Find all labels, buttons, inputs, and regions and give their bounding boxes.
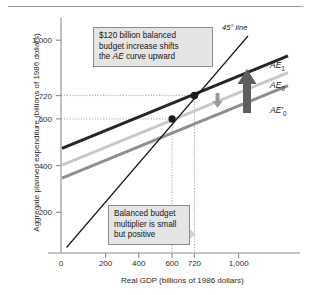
ae0-prime-curve	[62, 86, 288, 179]
annotation-top-line3-pre: the	[99, 52, 113, 61]
ae1-label-base: AE	[270, 60, 281, 70]
x-tick-0: 0	[46, 259, 76, 268]
x-tick-400: 400	[124, 259, 154, 268]
annotation-top-line3-post: curve upward	[124, 52, 175, 61]
ae0-prime-curve-label: AE'0	[270, 105, 287, 117]
y-axis-title: Aggregate planned expenditure (billions …	[32, 33, 41, 233]
annotation-budget-increase: $120 billion balanced budget increase sh…	[93, 27, 213, 67]
annotation-top-line2: budget increase shifts	[99, 42, 207, 53]
x-tick-720: 720	[179, 259, 209, 268]
annotation-bottom-line3: but positive	[114, 230, 184, 241]
ae1-label-sub: 1	[281, 65, 285, 72]
ae0-curve-label: AE0	[270, 80, 285, 92]
x-axis-title: Real GDP (billions of 1986 dollars)	[121, 276, 244, 285]
ae1-curve	[62, 56, 288, 149]
annotation-top-line3-em: AE	[113, 52, 124, 61]
x-axis-ticks	[106, 253, 239, 258]
x-tick-1000: 1,000	[224, 259, 254, 268]
ae0-prime-label-sub: 0	[283, 110, 287, 117]
ae0-label-base: AE	[270, 80, 281, 90]
annotation-balanced-budget-multiplier: Balanced budget multiplier is small but …	[108, 205, 190, 245]
annotation-bottom-line2: multiplier is small	[114, 220, 184, 231]
ae1-curve-label: AE1	[270, 60, 285, 72]
ae0-prime-label-base: AE'	[270, 105, 283, 115]
equilibrium-points	[169, 92, 199, 123]
annotation-top-line1: $120 billion balanced	[99, 31, 207, 42]
forty-five-degree-label: 45° line	[222, 23, 247, 32]
y-axis-ticks	[56, 40, 61, 212]
annotation-bottom-line1: Balanced budget	[114, 209, 184, 220]
x-tick-200: 200	[91, 259, 121, 268]
ae0-label-sub: 0	[281, 85, 285, 92]
annotation-top-line3: the AE curve upward	[99, 52, 207, 63]
